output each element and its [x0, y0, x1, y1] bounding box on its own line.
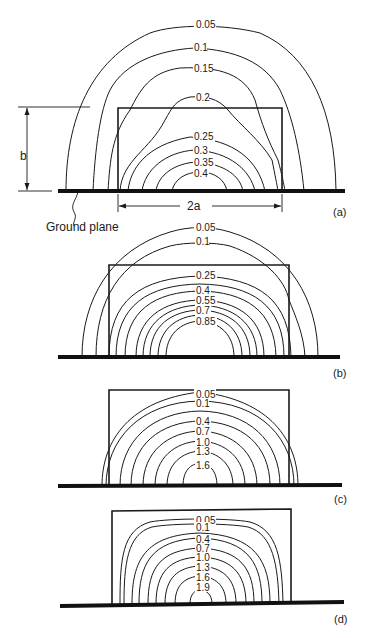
svg-text:0.15: 0.15 [194, 63, 214, 74]
svg-text:0.1: 0.1 [196, 522, 210, 533]
panel-tag-b: (b) [333, 367, 346, 379]
arrow-down-icon [25, 183, 30, 190]
arrow-up-icon [25, 108, 30, 115]
dim-b-label: b [20, 149, 27, 163]
figure: b 2a Ground plane 0.05 0.1 0.15 0.2 0.25… [0, 0, 370, 638]
svg-text:1.6: 1.6 [196, 460, 210, 471]
svg-text:0.25: 0.25 [196, 270, 216, 281]
arrow-right-icon [274, 204, 281, 209]
ground-plane-c [58, 485, 342, 486]
panel-tag-c: (c) [334, 493, 347, 505]
svg-text:0.3: 0.3 [194, 145, 208, 156]
svg-text:0.1: 0.1 [196, 398, 210, 409]
panel-d: 0.05 0.1 0.4 0.7 1.0 1.3 1.6 1.9 (d) [60, 509, 347, 625]
svg-text:0.85: 0.85 [196, 316, 216, 327]
svg-text:1.3: 1.3 [196, 446, 210, 457]
panel-a: b 2a Ground plane 0.05 0.1 0.15 0.2 0.25… [18, 19, 346, 234]
panel-c: 0.05 0.1 0.4 0.7 1.0 1.3 1.6 (c) [58, 389, 347, 505]
panel-tag-d: (d) [334, 613, 347, 625]
svg-text:0.1: 0.1 [196, 236, 210, 247]
arrow-left-icon [119, 204, 126, 209]
svg-text:0.25: 0.25 [194, 131, 214, 142]
svg-text:0.05: 0.05 [196, 222, 216, 233]
ground-plane-label: Ground plane [46, 220, 119, 234]
svg-text:0.4: 0.4 [194, 168, 208, 179]
svg-text:0.35: 0.35 [194, 157, 214, 168]
panel-b: 0.05 0.1 0.25 0.4 0.55 0.7 0.85 (b) [58, 222, 346, 379]
panel-tag-a: (a) [333, 206, 346, 218]
ground-plane-d [60, 602, 344, 606]
svg-text:0.7: 0.7 [196, 305, 210, 316]
contour-labels-d: 0.05 0.1 0.4 0.7 1.0 1.3 1.6 1.9 [194, 515, 216, 593]
svg-text:1.9: 1.9 [196, 582, 210, 593]
dim-2a-label: 2a [187, 199, 201, 213]
svg-text:0.2: 0.2 [196, 92, 210, 103]
svg-text:0.7: 0.7 [196, 426, 210, 437]
svg-text:0.1: 0.1 [194, 42, 208, 53]
svg-text:0.05: 0.05 [196, 19, 216, 30]
